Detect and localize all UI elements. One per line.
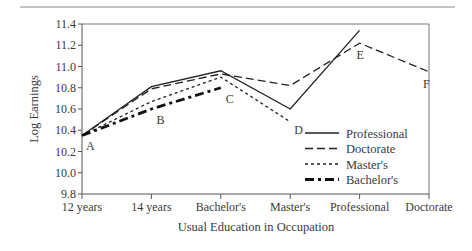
x-tick-label: Professional xyxy=(330,200,390,214)
x-axis-ticks: 12 years14 yearsBachelor'sMaster'sProfes… xyxy=(62,194,453,214)
point-label-b: B xyxy=(156,113,164,127)
x-axis-title: Usual Education in Occupation xyxy=(178,220,335,234)
point-label-a: A xyxy=(86,139,95,153)
y-tick-label: 11.2 xyxy=(55,38,76,52)
series-line-masters xyxy=(82,77,290,135)
point-label-c: C xyxy=(226,92,234,106)
point-label-d: D xyxy=(294,123,303,137)
y-tick-label: 10.4 xyxy=(55,123,76,137)
y-tick-label: 9.8 xyxy=(61,187,76,201)
y-tick-label: 10.2 xyxy=(55,145,76,159)
x-tick-label: 12 years xyxy=(62,200,103,214)
y-tick-label: 10.8 xyxy=(55,81,76,95)
series-line-bachelors xyxy=(82,88,221,136)
y-axis-ticks: 11.411.211.010.810.610.410.210.09.8 xyxy=(55,17,82,201)
line-chart: 11.411.211.010.810.610.410.210.09.8 12 y… xyxy=(0,0,472,251)
point-label-f: F xyxy=(423,77,430,91)
legend: ProfessionalDoctorateMaster'sBachelor's xyxy=(305,127,408,188)
y-tick-label: 11.4 xyxy=(55,17,76,31)
y-axis-title: Log Earnings xyxy=(27,75,41,143)
x-tick-label: Bachelor's xyxy=(196,200,246,214)
y-tick-label: 10.0 xyxy=(55,166,76,180)
series-lines xyxy=(82,30,429,135)
legend-label: Bachelor's xyxy=(346,173,398,187)
y-tick-label: 11.0 xyxy=(55,60,76,74)
point-label-e: E xyxy=(357,48,364,62)
legend-label: Master's xyxy=(346,158,388,172)
x-tick-label: Doctorate xyxy=(405,200,452,214)
legend-label: Professional xyxy=(346,127,408,141)
x-tick-label: 14 years xyxy=(131,200,172,214)
legend-label: Doctorate xyxy=(346,142,396,156)
x-tick-label: Master's xyxy=(270,200,310,214)
y-tick-label: 10.6 xyxy=(55,102,76,116)
